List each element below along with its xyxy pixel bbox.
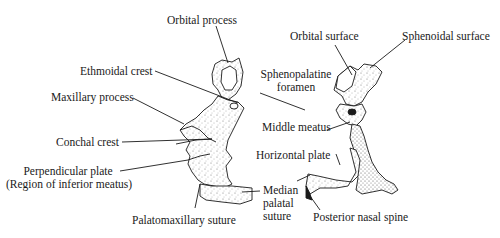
label-ethmoidal-crest: Ethmoidal crest bbox=[80, 65, 153, 78]
label-horizontal-plate: Horizontal plate bbox=[256, 149, 330, 162]
anatomy-figure: Orbital process Ethmoidal crest Maxillar… bbox=[0, 0, 500, 238]
label-median-palatal-suture-line3: suture bbox=[263, 210, 298, 223]
label-perpendicular-plate: Perpendicular plate (Region of inferior … bbox=[6, 165, 130, 191]
label-median-palatal-suture: Median palatal suture bbox=[263, 184, 298, 223]
label-sphenopalatine-foramen-line2: foramen bbox=[258, 81, 334, 94]
left-bone bbox=[176, 58, 252, 204]
label-orbital-process: Orbital process bbox=[167, 14, 237, 27]
label-median-palatal-suture-line1: Median bbox=[263, 184, 298, 197]
label-posterior-nasal-spine: Posterior nasal spine bbox=[313, 211, 408, 224]
label-perpendicular-plate-line1: Perpendicular plate bbox=[6, 165, 130, 178]
label-orbital-surface: Orbital surface bbox=[290, 30, 359, 43]
label-sphenoidal-surface: Sphenoidal surface bbox=[402, 30, 490, 43]
label-maxillary-process: Maxillary process bbox=[51, 91, 134, 104]
horizontal-plate-left-shape bbox=[200, 184, 252, 204]
label-conchal-crest: Conchal crest bbox=[56, 136, 119, 149]
label-palatomaxillary-suture: Palatomaxillary suture bbox=[132, 214, 236, 227]
label-sphenopalatine-foramen-line1: Sphenopalatine bbox=[258, 68, 334, 81]
label-middle-meatus: Middle meatus bbox=[262, 121, 331, 134]
perpendicular-plate-shape bbox=[180, 96, 244, 188]
label-perpendicular-plate-line2: (Region of inferior meatus) bbox=[6, 178, 130, 191]
label-sphenopalatine-foramen: Sphenopalatine foramen bbox=[258, 68, 334, 94]
label-median-palatal-suture-line2: palatal bbox=[263, 197, 298, 210]
